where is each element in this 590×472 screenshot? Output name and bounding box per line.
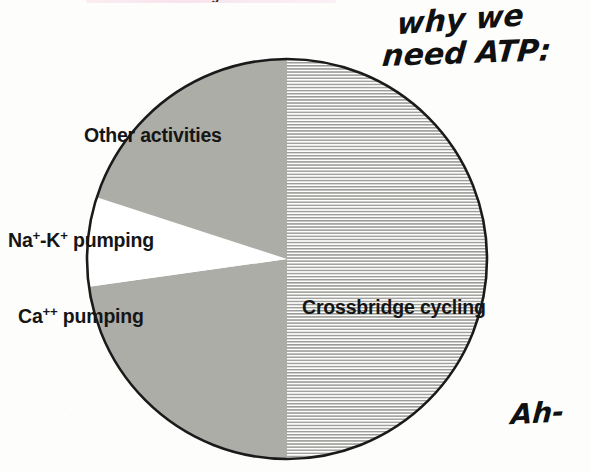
label-ca-charge: ++ [43,304,58,319]
label-crossbridge-cycling: Crossbridge cycling [302,296,486,319]
label-other-activities: Other activities [84,124,222,147]
figure-canvas: sources of ATP usage Other activities Na… [0,0,590,472]
label-na-charge: + [33,228,41,243]
label-ca-pumping: Ca++ pumping [18,305,144,328]
label-na-k-pumping: Na+-K+ pumping [8,229,154,252]
label-na-k-prefix: Na [8,229,33,251]
handwritten-note-line2: need ATP: [381,32,553,73]
handwritten-note-line3: Ah- [510,395,565,431]
label-na-k-suffix: pumping [68,229,154,251]
label-na-k-mid: -K [40,229,60,251]
pie-slice-ca-pumping [89,259,287,459]
label-k-charge: + [60,228,68,243]
label-ca-suffix: pumping [58,305,144,327]
pie-slice-crossbridge-cycling [287,59,487,459]
label-ca-prefix: Ca [18,305,43,327]
